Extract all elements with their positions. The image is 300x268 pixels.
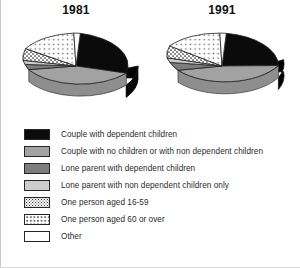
- charts-row: 1981: [0, 0, 300, 124]
- legend-swatch-gray-light-icon: [24, 180, 50, 191]
- chart-title-1981: 1981: [6, 3, 146, 17]
- legend-item-other: Other: [0, 228, 300, 245]
- chart-title-1991: 1991: [152, 3, 292, 17]
- legend-item-one-person-60-or-over: One person aged 60 or over: [0, 211, 300, 228]
- chart-1981: 1981: [6, 0, 146, 124]
- legend-item-couple-dependent-children: Couple with dependent children: [0, 126, 300, 143]
- chart-1991: 1991: [152, 0, 292, 124]
- legend-item-lone-parent-dependent-children: Lone parent with dependent children: [0, 160, 300, 177]
- legend-item-one-person-16-59: One person aged 16-59: [0, 194, 300, 211]
- legend-swatch-gray-medium-icon: [24, 146, 50, 157]
- legend-label: One person aged 60 or over: [61, 215, 165, 225]
- legend-label: One person aged 16-59: [61, 198, 149, 208]
- pie-1981-svg: [10, 19, 142, 117]
- legend: Couple with dependent children Couple wi…: [0, 126, 300, 245]
- legend-item-lone-parent-non-dependent-children: Lone parent with non dependent children …: [0, 177, 300, 194]
- legend-swatch-dots-dense-icon: [24, 197, 50, 208]
- legend-swatch-dots-light-icon: [24, 214, 50, 225]
- pie-1991: [156, 19, 288, 117]
- legend-swatch-white-icon: [24, 231, 50, 242]
- legend-item-couple-no-children: Couple with no children or with non depe…: [0, 143, 300, 160]
- pie-1981: [10, 19, 142, 117]
- legend-label: Lone parent with dependent children: [61, 164, 195, 174]
- pie-chart-figure: 1981: [0, 0, 300, 268]
- legend-label: Couple with dependent children: [61, 130, 177, 140]
- legend-label: Other: [61, 232, 82, 242]
- legend-label: Couple with no children or with non depe…: [61, 147, 263, 157]
- legend-swatch-black-icon: [24, 129, 50, 140]
- pie-1991-svg: [156, 19, 288, 117]
- legend-swatch-gray-dark-icon: [24, 163, 50, 174]
- legend-label: Lone parent with non dependent children …: [61, 181, 229, 191]
